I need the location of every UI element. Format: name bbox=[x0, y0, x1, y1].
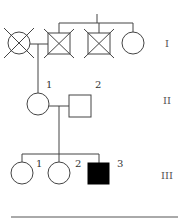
gen2-individual-2-male bbox=[69, 95, 91, 117]
gen1-individual-4-female bbox=[122, 32, 144, 54]
gen3-label-1: 1 bbox=[36, 158, 42, 169]
gen2-label-1: 1 bbox=[46, 79, 52, 90]
gen1-individual-2-deceased-male bbox=[44, 29, 74, 58]
generation-label-1: I bbox=[165, 38, 169, 49]
gen1-individual-1-deceased-female bbox=[4, 28, 34, 58]
gen2-individual-1-female bbox=[27, 93, 49, 115]
gen3-individual-1-female bbox=[11, 162, 33, 184]
gen3-individual-3-affected-male bbox=[88, 163, 109, 184]
generation-label-3: III bbox=[161, 170, 173, 181]
gen3-label-2: 2 bbox=[75, 158, 81, 169]
gen1-individual-3-deceased-male bbox=[84, 29, 114, 58]
gen3-individual-2-female bbox=[48, 162, 70, 184]
generation-label-2: II bbox=[163, 95, 171, 106]
gen2-label-2: 2 bbox=[95, 79, 101, 90]
gen3-label-3: 3 bbox=[117, 158, 123, 169]
pedigree-chart: 1 2 1 2 3 I II III bbox=[0, 0, 181, 219]
